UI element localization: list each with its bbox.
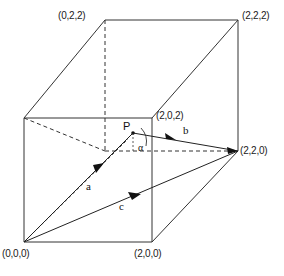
- vertex-label-2-2-2: (2,2,2): [242, 10, 270, 21]
- vector-c-label: c: [119, 200, 124, 212]
- vertex-label-0-2-2: (0,2,2): [58, 10, 86, 21]
- angle-alpha-label: α: [138, 142, 143, 153]
- geometry-figure: (0,2,2) (2,2,2) (2,0,2) (2,2,0) (0,0,0) …: [0, 0, 284, 276]
- vector-b-label: b: [183, 124, 189, 136]
- vector-arrowheads: [93, 133, 238, 200]
- edge-top-left-depth: [24, 20, 105, 118]
- vertex-label-2-0-0: (2,0,0): [134, 248, 162, 259]
- cube-diagram-svg: [0, 0, 284, 276]
- vertex-label-2-2-0: (2,2,0): [240, 145, 268, 156]
- vector-b-arrowhead: [165, 133, 176, 140]
- vertex-label-0-0-0: (0,0,0): [2, 248, 30, 259]
- cube-dashed-edges: [24, 20, 238, 151]
- vertex-label-2-0-2: (2,0,2): [156, 110, 184, 121]
- edge-bottom-right-depth: [152, 151, 238, 242]
- vector-a-label: a: [86, 180, 91, 192]
- edge-hidden-left-depth: [24, 118, 105, 151]
- vector-a-line: [24, 133, 133, 242]
- point-p-label: P: [123, 120, 130, 132]
- cube-solid-edges: [24, 20, 238, 242]
- edge-top-right-depth: [152, 20, 238, 118]
- vectors-group: [24, 133, 238, 242]
